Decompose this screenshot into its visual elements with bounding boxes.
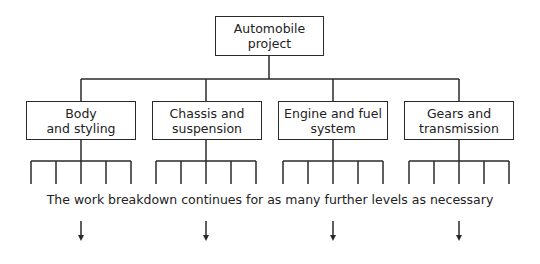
node-label: Engine and fuel system (284, 106, 382, 136)
arrow-down-icon (203, 235, 209, 241)
node-label: Chassis and suspension (170, 106, 245, 136)
root-node-automobile-project: Automobile project (215, 16, 324, 56)
arrow-down-icon (78, 235, 84, 241)
node-label: Gears and transmission (419, 106, 499, 136)
arrow-down-icon (330, 235, 336, 241)
node-chassis-and-suspension: Chassis and suspension (152, 101, 262, 140)
arrow-down-icon (456, 235, 462, 241)
node-gears-and-transmission: Gears and transmission (404, 101, 514, 140)
root-node-label: Automobile project (234, 21, 305, 51)
node-body-and-styling: Body and styling (26, 101, 136, 140)
node-engine-and-fuel-system: Engine and fuel system (278, 101, 388, 140)
continuation-note: The work breakdown continues for as many… (0, 192, 540, 207)
node-label: Body and styling (46, 106, 115, 136)
